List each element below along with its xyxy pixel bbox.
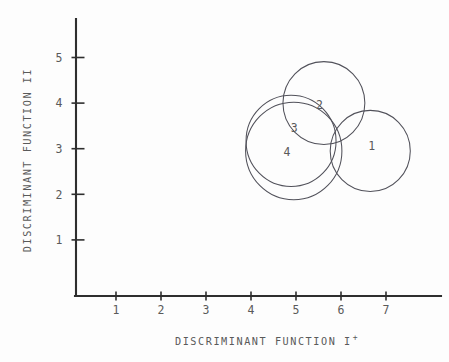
- x-axis-tick-labels: 1234567: [113, 303, 390, 317]
- x-axis-title-superscript: +: [353, 333, 358, 342]
- plot-canvas: 1234567 12345 1234 DISCRIMINANT FUNCTION…: [0, 0, 449, 362]
- x-tick-label-2: 2: [158, 303, 165, 317]
- discriminant-function-figure: 1234567 12345 1234 DISCRIMINANT FUNCTION…: [0, 0, 449, 362]
- x-tick-label-4: 4: [248, 303, 255, 317]
- group-label-2: 2: [316, 98, 323, 112]
- x-axis-title: DISCRIMINANT FUNCTION I: [175, 336, 352, 347]
- group-circle-4: [246, 102, 342, 200]
- y-tick-label-1: 1: [56, 233, 63, 247]
- group-label-4: 4: [284, 145, 291, 159]
- axes-group: [75, 19, 441, 296]
- y-tick-label-5: 5: [56, 51, 63, 65]
- group-circles: [246, 62, 411, 200]
- x-tick-label-3: 3: [203, 303, 210, 317]
- group-label-1: 1: [368, 139, 375, 153]
- x-axis-title-group: DISCRIMINANT FUNCTION I +: [175, 333, 358, 347]
- x-tick-label-1: 1: [113, 303, 120, 317]
- x-tick-label-7: 7: [383, 303, 390, 317]
- y-axis-title: DISCRIMINANT FUNCTION II: [22, 68, 33, 252]
- y-tick-label-3: 3: [56, 142, 63, 156]
- y-axis-title-group: DISCRIMINANT FUNCTION II: [22, 68, 33, 252]
- y-tick-label-4: 4: [56, 96, 63, 110]
- y-tick-label-2: 2: [56, 188, 63, 202]
- group-label-3: 3: [291, 121, 298, 135]
- y-axis-tick-labels: 12345: [56, 51, 63, 247]
- x-tick-label-5: 5: [293, 303, 300, 317]
- group-labels: 1234: [284, 98, 376, 159]
- x-tick-label-6: 6: [338, 303, 345, 317]
- y-axis-ticks: [72, 58, 85, 240]
